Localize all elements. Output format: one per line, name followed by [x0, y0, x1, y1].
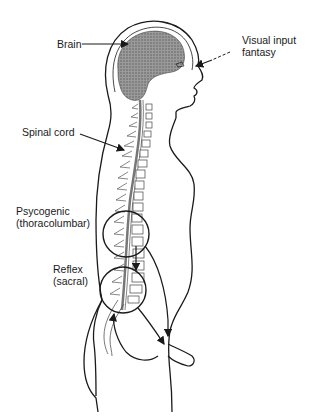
label-brain: Brain — [57, 38, 82, 50]
visual-input-line1: Visual input — [242, 34, 296, 46]
psychogenic-line2: (thoracolumbar) — [16, 217, 90, 229]
brain-label-text: Brain — [57, 38, 82, 50]
spinal-cord-arrow — [80, 134, 124, 150]
visual-input-arrow-dashed — [212, 52, 230, 60]
label-reflex: Reflex (sacral) — [53, 263, 88, 287]
reflex-line1: Reflex — [53, 263, 88, 275]
label-psychogenic: Psycogenic (thoracolumbar) — [16, 205, 90, 229]
label-spinal-cord: Spinal cord — [22, 126, 75, 138]
visual-input-line2: fantasy — [242, 46, 296, 58]
penis — [168, 344, 194, 366]
psychogenic-line1: Psycogenic — [16, 205, 90, 217]
brain-shape — [118, 31, 185, 100]
reflex-line2: (sacral) — [53, 275, 88, 287]
label-visual-input: Visual input fantasy — [242, 34, 296, 58]
spinal-cord-label-text: Spinal cord — [22, 126, 75, 138]
